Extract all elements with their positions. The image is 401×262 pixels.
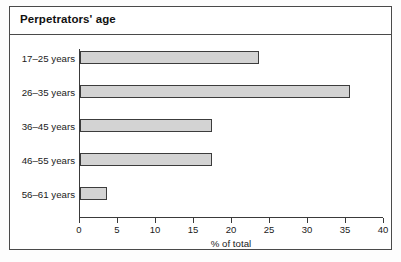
page-title: Perpetrators' age [20, 13, 116, 25]
category-label: 26–35 years [22, 87, 75, 98]
bar [80, 153, 212, 166]
x-tick [345, 218, 346, 223]
x-tick [79, 218, 80, 223]
bar-row: 56–61 years [10, 185, 391, 204]
x-tick-label: 40 [378, 224, 389, 235]
x-tick [231, 218, 232, 223]
x-tick [155, 218, 156, 223]
bar-row: 17–25 years [10, 49, 391, 68]
bar [80, 119, 212, 132]
x-tick [307, 218, 308, 223]
x-tick-label: 30 [302, 224, 313, 235]
x-tick-label: 0 [76, 224, 81, 235]
category-label: 46–55 years [22, 155, 75, 166]
x-tick-label: 15 [188, 224, 199, 235]
bar [80, 187, 107, 200]
category-label: 36–45 years [22, 121, 75, 132]
bar [80, 51, 259, 64]
category-label: 17–25 years [22, 53, 75, 64]
x-tick [117, 218, 118, 223]
x-tick [193, 218, 194, 223]
chart-title-bar: Perpetrators' age [10, 7, 391, 35]
bar-row: 26–35 years [10, 83, 391, 102]
x-tick-label: 35 [340, 224, 351, 235]
bar-row: 36–45 years [10, 117, 391, 136]
x-tick [269, 218, 270, 223]
bar-row: 46–55 years [10, 151, 391, 170]
x-tick-label: 5 [114, 224, 119, 235]
chart-figure: Perpetrators' age 17–25 years26–35 years… [9, 6, 392, 250]
category-label: 56–61 years [22, 189, 75, 200]
plot-area: 17–25 years26–35 years36–45 years46–55 y… [10, 35, 391, 249]
x-tick [383, 218, 384, 223]
x-tick-label: 20 [226, 224, 237, 235]
x-tick-label: 25 [264, 224, 275, 235]
bar [80, 85, 350, 98]
x-axis-label: % of total [79, 238, 383, 249]
x-tick-label: 10 [150, 224, 161, 235]
